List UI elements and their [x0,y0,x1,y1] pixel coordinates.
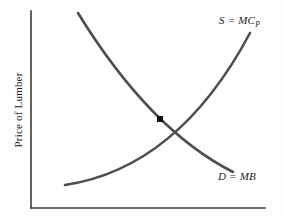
supply-curve [65,33,250,185]
equilibrium-point-marker [157,116,163,122]
y-axis-title: Price of Lumber [12,56,24,164]
supply-curve-label: S = MCP [219,14,260,26]
chart-plot-area [0,0,284,222]
supply-label-subscript: P [255,20,260,29]
supply-demand-chart: S = MCP D = MB Price of Lumber [0,0,284,222]
supply-label-text: S = MC [219,14,255,26]
demand-curve-label: D = MB [218,170,256,182]
